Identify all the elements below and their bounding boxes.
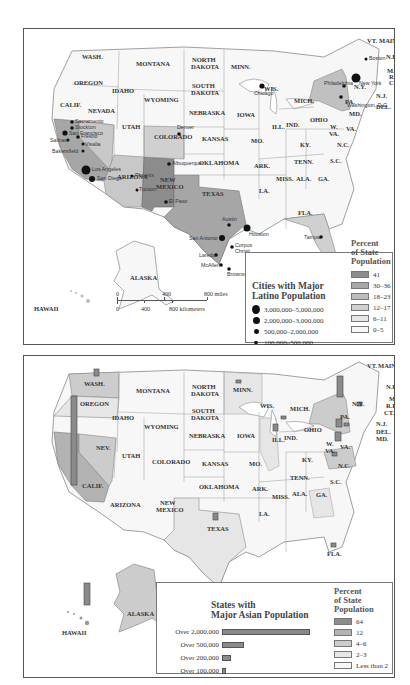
- svg-text:UTAH: UTAH: [122, 123, 140, 130]
- city-size-item: 3,000,000–5,000,000: [252, 304, 326, 315]
- svg-text:DAKOTA: DAKOTA: [191, 414, 219, 421]
- bar-item: Over 100,000: [157, 664, 310, 677]
- svg-text:TEXAS: TEXAS: [207, 525, 229, 532]
- percent-item: 18–23: [351, 291, 391, 302]
- svg-text:OKLAHOMA: OKLAHOMA: [199, 159, 239, 166]
- svg-text:Laredo: Laredo: [199, 252, 216, 258]
- svg-text:OHIO: OHIO: [304, 426, 322, 433]
- svg-text:IND.: IND.: [286, 121, 300, 128]
- svg-text:CALIF.: CALIF.: [82, 482, 104, 489]
- svg-text:Phoenix: Phoenix: [135, 172, 154, 178]
- svg-text:KY.: KY.: [300, 141, 311, 148]
- svg-text:IOWA: IOWA: [237, 432, 255, 439]
- svg-text:R.I.: R.I.: [386, 402, 394, 409]
- svg-text:DAKOTA: DAKOTA: [191, 390, 219, 397]
- svg-text:CALIF.: CALIF.: [60, 101, 82, 108]
- svg-text:MINN.: MINN.: [231, 63, 251, 70]
- svg-text:Philadelphia: Philadelphia: [324, 80, 353, 86]
- svg-text:PA.: PA.: [340, 413, 350, 420]
- svg-text:KY.: KY.: [302, 456, 313, 463]
- svg-text:McAllen: McAllen: [201, 262, 220, 268]
- svg-text:S.C.: S.C.: [330, 157, 342, 164]
- svg-text:FLA.: FLA.: [298, 209, 313, 216]
- svg-text:ARIZONA: ARIZONA: [110, 501, 141, 508]
- svg-text:TENN.: TENN.: [290, 474, 310, 481]
- svg-text:OREGON: OREGON: [74, 79, 103, 86]
- percent-item: 30–36: [351, 280, 391, 291]
- svg-text:MAINE: MAINE: [378, 362, 394, 369]
- svg-text:ALASKA: ALASKA: [127, 610, 154, 617]
- svg-text:NEV.: NEV.: [96, 444, 111, 451]
- svg-text:Salinas: Salinas: [50, 137, 68, 143]
- svg-text:N.Y.: N.Y.: [352, 400, 364, 407]
- svg-text:TEXAS: TEXAS: [202, 190, 224, 197]
- city-size-item: 2,000,000–3,000,000: [252, 315, 326, 326]
- svg-text:Albuquerque: Albuquerque: [172, 160, 202, 166]
- percent-item: 4–6: [334, 638, 388, 649]
- svg-text:OREGON: OREGON: [80, 400, 109, 407]
- svg-text:LA.: LA.: [259, 187, 270, 194]
- svg-text:IDAHO: IDAHO: [112, 414, 134, 421]
- svg-text:MISS.: MISS.: [276, 175, 294, 182]
- svg-text:NEBRASKA: NEBRASKA: [189, 432, 225, 439]
- svg-text:MINN.: MINN.: [233, 386, 253, 393]
- svg-text:ARK.: ARK.: [254, 162, 270, 169]
- hawaii-shape: [70, 290, 90, 303]
- svg-text:OHIO: OHIO: [310, 116, 328, 123]
- city-size-item: 100,000–500,000: [252, 337, 326, 348]
- percent-item: 41: [351, 269, 391, 280]
- svg-text:HAWAII: HAWAII: [62, 629, 87, 636]
- svg-text:SOUTH: SOUTH: [192, 82, 215, 89]
- svg-text:IOWA: IOWA: [237, 111, 255, 118]
- svg-text:Chicago: Chicago: [254, 90, 273, 96]
- svg-text:MD.: MD.: [376, 435, 389, 442]
- svg-text:LA.: LA.: [259, 510, 270, 517]
- svg-text:MASS.: MASS.: [389, 395, 394, 402]
- percent-item: 2–3: [334, 649, 388, 660]
- svg-text:NORTH: NORTH: [192, 383, 216, 390]
- latino-population-map: WASH. OREGON CALIF. NEVADA IDAHO MONTANA…: [23, 28, 395, 345]
- percent-item: 64: [334, 616, 388, 627]
- city-size-item: 500,000–2,000,000: [252, 326, 326, 337]
- svg-text:San Diego: San Diego: [97, 175, 122, 181]
- svg-text:COLORADO: COLORADO: [154, 133, 192, 140]
- svg-text:GA.: GA.: [318, 175, 330, 182]
- svg-text:MONTANA: MONTANA: [136, 60, 170, 67]
- percent-item: 12–17: [351, 302, 391, 313]
- svg-text:Austin: Austin: [222, 216, 237, 222]
- svg-text:Fresno: Fresno: [81, 133, 98, 139]
- svg-text:MISS.: MISS.: [272, 493, 290, 500]
- svg-text:FLA.: FLA.: [327, 550, 342, 557]
- svg-text:VA.: VA.: [340, 443, 351, 450]
- svg-text:COLORADO: COLORADO: [152, 458, 190, 465]
- svg-text:UTAH: UTAH: [122, 452, 140, 459]
- svg-text:Bakersfield: Bakersfield: [52, 148, 78, 154]
- svg-text:Tucson: Tucson: [139, 186, 156, 192]
- svg-text:CONN.: CONN.: [389, 79, 394, 86]
- svg-text:VT.: VT.: [367, 362, 378, 369]
- svg-text:NEBRASKA: NEBRASKA: [189, 109, 225, 116]
- svg-text:NEW: NEW: [160, 499, 176, 506]
- svg-text:W.: W.: [326, 440, 334, 447]
- svg-text:VA.: VA.: [329, 130, 340, 137]
- legend-title: Cities with Major: [252, 281, 326, 291]
- svg-text:CT.: CT.: [384, 409, 394, 416]
- svg-text:IND.: IND.: [284, 434, 298, 441]
- svg-text:San Antonio: San Antonio: [189, 235, 218, 241]
- svg-text:New York: New York: [359, 80, 382, 86]
- percent-item: 0–5: [351, 324, 391, 335]
- svg-text:Tampa: Tampa: [304, 234, 320, 240]
- svg-text:Washington, D.C.: Washington, D.C.: [347, 102, 388, 108]
- svg-text:MEXICO: MEXICO: [156, 506, 183, 513]
- svg-text:DEL.: DEL.: [376, 428, 391, 435]
- svg-text:SOUTH: SOUTH: [192, 407, 215, 414]
- latino-legend: Cities with Major Latino Population 3,00…: [245, 252, 393, 343]
- svg-text:Houston: Houston: [249, 231, 269, 237]
- svg-text:N.J.: N.J.: [376, 420, 388, 427]
- svg-text:IDAHO: IDAHO: [112, 87, 134, 94]
- svg-text:NEVADA: NEVADA: [88, 107, 115, 114]
- svg-text:MICH.: MICH.: [290, 405, 310, 412]
- svg-text:Boston: Boston: [369, 55, 386, 61]
- map-scale: 0 400 800 miles 0 400 800 kilometers: [116, 291, 226, 317]
- bar-item: Over 200,000: [157, 651, 310, 664]
